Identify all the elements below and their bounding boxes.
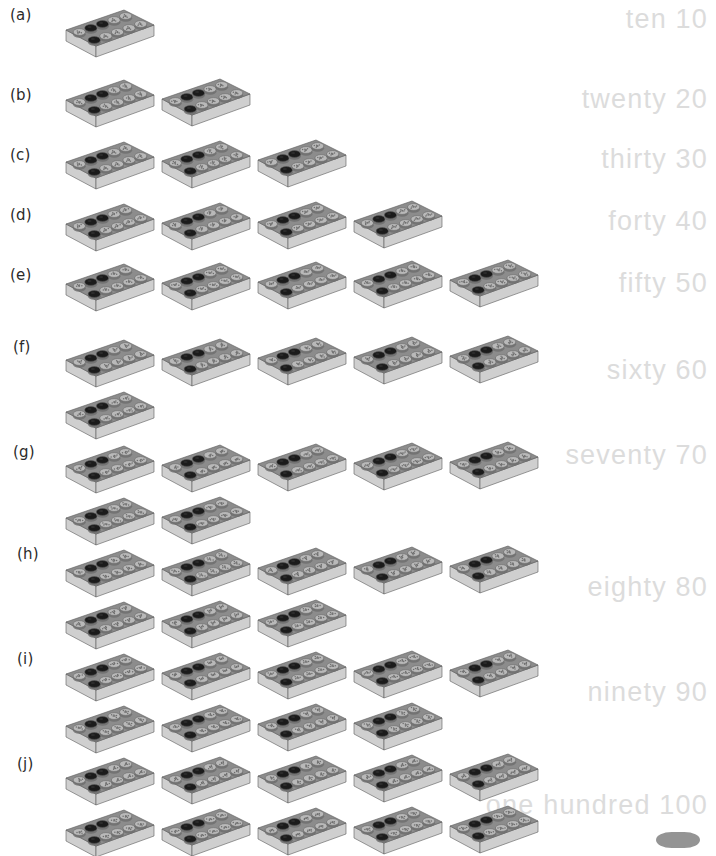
lego-plate xyxy=(158,77,254,129)
brick-group xyxy=(0,330,470,435)
lego-plate xyxy=(350,649,446,701)
brick-group xyxy=(0,0,470,70)
lego-plate xyxy=(62,8,158,60)
lego-plate xyxy=(350,805,446,856)
lego-plate xyxy=(446,258,542,310)
lego-plate xyxy=(62,808,158,856)
lego-plate xyxy=(158,139,254,191)
lego-plate xyxy=(158,651,254,703)
lego-plate xyxy=(446,804,542,856)
number-word-label: twenty 20 xyxy=(582,84,708,115)
lego-plate xyxy=(62,444,158,496)
lego-plate xyxy=(446,334,542,386)
lego-plate xyxy=(254,650,350,702)
quantity-row: (a)ten 10 xyxy=(0,0,716,70)
lego-plate xyxy=(158,495,254,547)
lego-plate xyxy=(158,599,254,651)
brick-group xyxy=(0,132,470,194)
lego-plate xyxy=(62,704,158,756)
quantity-row: (i)ninety 90 xyxy=(0,644,716,748)
number-word-label: ninety 90 xyxy=(588,677,708,708)
quantity-row: (e)fifty 50 xyxy=(0,254,716,316)
lego-plate xyxy=(62,202,158,254)
lego-plate xyxy=(62,548,158,600)
number-word-label: sixty 60 xyxy=(607,355,708,386)
brick-group xyxy=(0,644,470,748)
lego-plate xyxy=(254,260,350,312)
lego-plate xyxy=(62,756,158,808)
brick-group xyxy=(0,748,470,856)
number-word-label: seventy 70 xyxy=(565,440,708,471)
lego-plate xyxy=(446,648,542,700)
lego-plate xyxy=(62,262,158,314)
quantity-row: (h)eighty 80 xyxy=(0,540,716,644)
brick-group xyxy=(0,254,470,316)
lego-plate xyxy=(350,545,446,597)
lego-plate xyxy=(254,442,350,494)
number-word-label: thirty 30 xyxy=(601,144,708,175)
lego-plate xyxy=(62,600,158,652)
number-word-label: eighty 80 xyxy=(588,572,708,603)
lego-plate xyxy=(254,138,350,190)
brick-group xyxy=(0,540,470,644)
lego-plate xyxy=(158,443,254,495)
lego-plate xyxy=(158,755,254,807)
lego-plate xyxy=(350,441,446,493)
lego-plate xyxy=(254,336,350,388)
lego-plate xyxy=(158,337,254,389)
lego-plate xyxy=(254,806,350,856)
brick-group xyxy=(0,70,470,132)
lego-plate xyxy=(254,200,350,252)
lego-plate xyxy=(446,544,542,596)
lego-plate xyxy=(158,807,254,856)
worksheet-page: (a)ten 10(b)twenty 20(c)thirty 30(d)fort… xyxy=(0,0,716,856)
number-word-label: fifty 50 xyxy=(619,268,708,299)
lego-plate xyxy=(254,598,350,650)
number-word-label: ten 10 xyxy=(626,4,708,35)
lego-plate xyxy=(446,440,542,492)
lego-plate xyxy=(158,201,254,253)
quantity-row: (j)one hundred 100 xyxy=(0,748,716,856)
lego-plate xyxy=(62,390,158,442)
quantity-row: (d)forty 40 xyxy=(0,194,716,256)
lego-plate xyxy=(62,496,158,548)
lego-plate xyxy=(350,199,446,251)
number-word-label: forty 40 xyxy=(608,206,708,237)
lego-plate xyxy=(158,703,254,755)
lego-plate xyxy=(254,754,350,806)
brick-group xyxy=(0,194,470,256)
brick-group xyxy=(0,436,470,540)
lego-plate xyxy=(350,701,446,753)
lego-plate xyxy=(62,338,158,390)
lego-plate xyxy=(158,547,254,599)
lego-plate xyxy=(350,335,446,387)
lego-plate xyxy=(350,259,446,311)
lego-plate xyxy=(446,752,542,804)
quantity-row: (b)twenty 20 xyxy=(0,70,716,132)
lego-plate xyxy=(158,261,254,313)
lego-plate xyxy=(254,702,350,754)
corner-smudge-mark xyxy=(656,832,700,848)
lego-plate xyxy=(350,753,446,805)
lego-plate xyxy=(62,78,158,130)
lego-plate xyxy=(62,652,158,704)
quantity-row: (f)sixty 60 xyxy=(0,330,716,435)
lego-plate xyxy=(62,140,158,192)
quantity-row: (g)seventy 70 xyxy=(0,436,716,540)
lego-plate xyxy=(254,546,350,598)
quantity-row: (c)thirty 30 xyxy=(0,132,716,194)
